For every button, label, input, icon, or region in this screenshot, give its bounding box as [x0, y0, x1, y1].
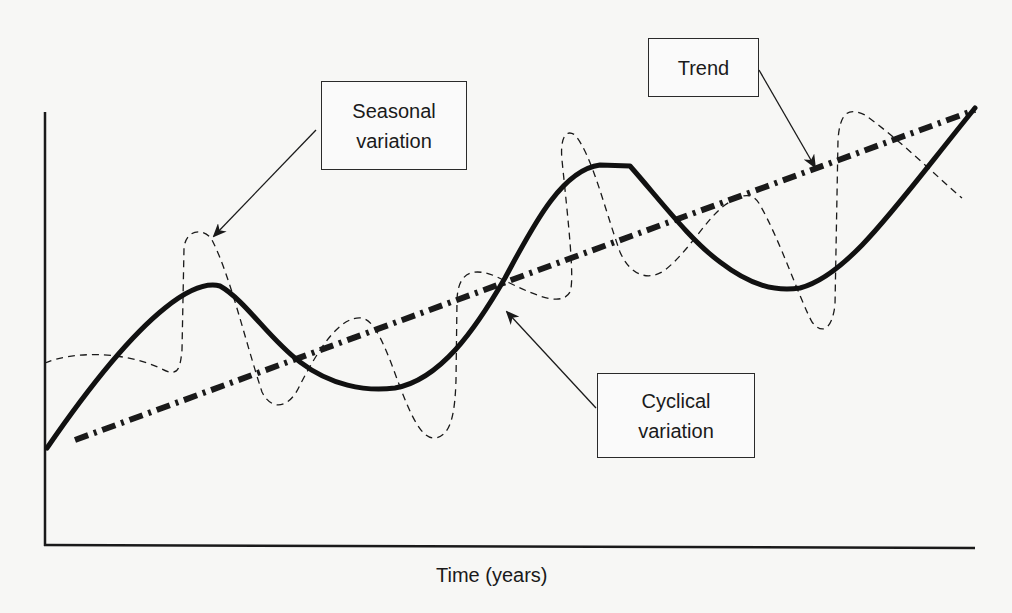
cyclical-label-line1: Cyclical [642, 386, 711, 416]
trend-arrow [759, 70, 815, 167]
axes [44, 112, 975, 548]
cyclical-label-line2: variation [638, 416, 714, 446]
x-axis [44, 545, 975, 548]
seasonal-variation-label: Seasonal variation [321, 81, 467, 170]
trend-label: Trend [648, 38, 759, 97]
seasonal-label-line2: variation [356, 126, 432, 156]
time-series-diagram: Seasonal variation Trend Cyclical variat… [0, 0, 1012, 613]
trend-label-text: Trend [678, 53, 730, 83]
trend-line [75, 110, 975, 440]
cyclical-variation-label: Cyclical variation [597, 373, 755, 458]
seasonal-arrow [214, 130, 316, 236]
x-axis-label: Time (years) [436, 564, 547, 587]
diagram-canvas [0, 0, 1012, 613]
seasonal-label-line1: Seasonal [352, 96, 435, 126]
cyclical-arrow [507, 312, 596, 408]
